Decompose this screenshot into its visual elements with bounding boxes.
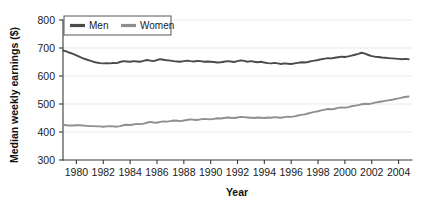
series-line-women bbox=[63, 96, 409, 126]
x-tick-label-1980: 1980 bbox=[65, 166, 89, 178]
x-tick-label-1992: 1992 bbox=[226, 166, 250, 178]
axes bbox=[63, 20, 412, 160]
y-axis-title: Median weekly earnings ($) bbox=[8, 27, 20, 163]
earnings-line-chart: 300400500600700800 198019821984198619881… bbox=[0, 0, 432, 205]
x-tick-label-1988: 1988 bbox=[172, 166, 196, 178]
data-series-group bbox=[63, 51, 409, 127]
x-tick-label-1986: 1986 bbox=[145, 166, 169, 178]
x-tick-label-2002: 2002 bbox=[360, 166, 384, 178]
y-tick-label-800: 800 bbox=[37, 14, 55, 26]
x-tick-label-1984: 1984 bbox=[118, 166, 142, 178]
x-tick-label-1994: 1994 bbox=[253, 166, 277, 178]
y-axis-ticks: 300400500600700800 bbox=[37, 14, 63, 166]
y-tick-label-400: 400 bbox=[37, 126, 55, 138]
x-tick-label-2000: 2000 bbox=[333, 166, 357, 178]
x-axis-title: Year bbox=[226, 186, 248, 198]
y-tick-label-300: 300 bbox=[37, 154, 55, 166]
y-tick-label-700: 700 bbox=[37, 42, 55, 54]
series-line-men bbox=[63, 51, 409, 64]
x-tick-label-1996: 1996 bbox=[280, 166, 304, 178]
gridlines bbox=[63, 20, 412, 132]
legend-label-men: Men bbox=[89, 20, 108, 31]
x-axis-ticks: 1980198219841986198819901992199419961998… bbox=[65, 160, 411, 178]
y-tick-label-600: 600 bbox=[37, 70, 55, 82]
y-tick-label-500: 500 bbox=[37, 98, 55, 110]
chart-legend: MenWomen bbox=[64, 16, 174, 35]
x-tick-label-1982: 1982 bbox=[92, 166, 116, 178]
chart-canvas: 300400500600700800 198019821984198619881… bbox=[0, 0, 432, 205]
x-tick-label-1998: 1998 bbox=[306, 166, 330, 178]
x-tick-label-2004: 2004 bbox=[387, 166, 411, 178]
x-tick-label-1990: 1990 bbox=[199, 166, 223, 178]
legend-label-women: Women bbox=[140, 20, 174, 31]
